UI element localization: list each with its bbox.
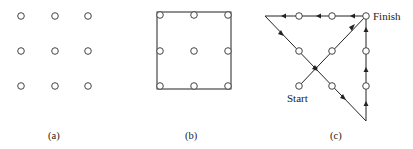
dot [52, 83, 59, 90]
dot [157, 12, 164, 19]
arrow-icon [364, 27, 369, 32]
dot [18, 83, 25, 90]
intersection-point [315, 67, 318, 70]
caption-b: (b) [185, 130, 198, 142]
finish-label: Finish [373, 10, 401, 22]
dot [157, 48, 164, 55]
dot [329, 83, 336, 90]
dot [85, 13, 92, 20]
dot [191, 83, 198, 90]
dot [191, 48, 198, 55]
dot [329, 13, 336, 20]
dot [225, 48, 232, 55]
dot [52, 13, 59, 20]
dot [363, 83, 370, 90]
dot [329, 48, 336, 55]
dot [363, 13, 370, 20]
arrow-icon [364, 67, 369, 72]
dot [296, 48, 303, 55]
dot [363, 48, 370, 55]
arrow-icon [316, 14, 321, 19]
dot [85, 48, 92, 55]
panel-b [157, 12, 232, 90]
dot [52, 48, 59, 55]
arrow-icon [349, 24, 355, 31]
dot [157, 83, 164, 90]
start-label: Start [287, 92, 308, 104]
dot [296, 83, 303, 90]
dot [18, 13, 25, 20]
dot [191, 12, 198, 19]
arrow-icon [364, 101, 369, 106]
caption-a: (a) [48, 130, 60, 142]
dot [296, 13, 303, 20]
dot [225, 83, 232, 90]
arrow-icon [281, 14, 286, 19]
nine-dot-figure: (a) (b) [0, 0, 413, 149]
arrow-icon [350, 14, 355, 19]
panel-a [18, 13, 92, 90]
panel-c: Finish Start [265, 10, 401, 121]
dot [18, 48, 25, 55]
caption-c: (c) [330, 130, 342, 142]
dot [225, 12, 232, 19]
dot [85, 83, 92, 90]
